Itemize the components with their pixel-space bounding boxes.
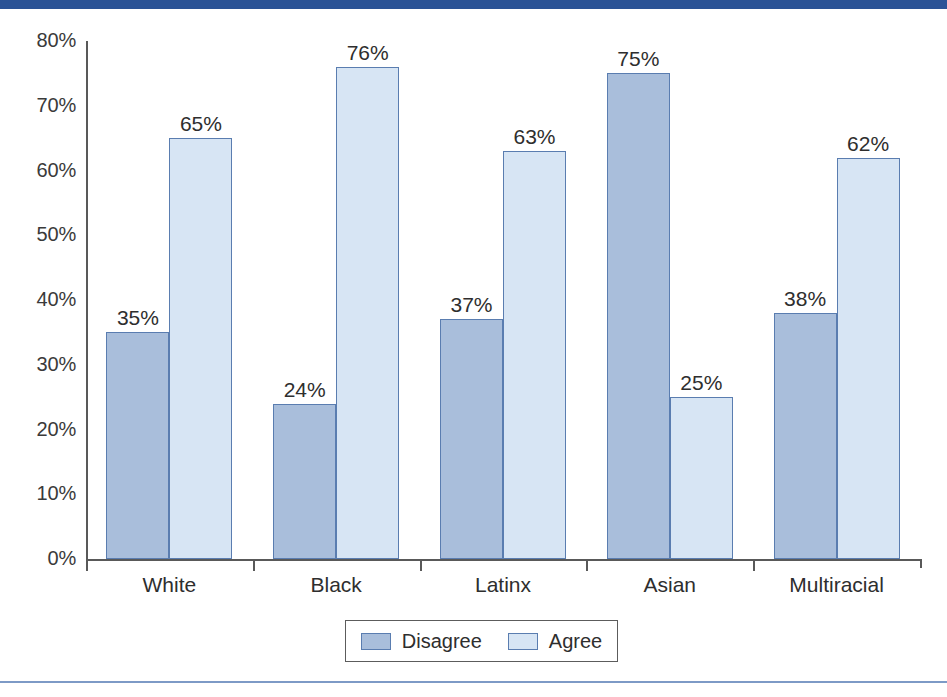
bar-value-label: 76% bbox=[347, 41, 389, 65]
y-axis-labels: 80%70%60%50%40%30%20%10%0% bbox=[0, 41, 76, 561]
x-axis-group-separator-tick bbox=[420, 561, 422, 571]
bar-group-black: 24%76% bbox=[273, 41, 399, 559]
bar-group-white: 35%65% bbox=[106, 41, 232, 559]
bar-value-label: 38% bbox=[784, 287, 826, 311]
x-axis-group-separator-tick bbox=[753, 561, 755, 571]
x-axis-label-multiracial: Multiracial bbox=[753, 573, 920, 597]
y-axis-tick-label: 40% bbox=[2, 288, 76, 311]
chart-page: 80%70%60%50%40%30%20%10%0% 35%65%24%76%3… bbox=[0, 0, 947, 697]
x-axis-label-black: Black bbox=[253, 573, 420, 597]
x-axis-line bbox=[86, 559, 922, 561]
bar-black-disagree: 24% bbox=[273, 404, 336, 559]
legend-item-agree: Agree bbox=[508, 630, 602, 653]
y-axis-tick-label: 80% bbox=[2, 29, 76, 52]
y-axis-tick-label: 70% bbox=[2, 94, 76, 117]
x-axis-label-white: White bbox=[86, 573, 253, 597]
y-axis-tick-label: 50% bbox=[2, 223, 76, 246]
x-axis-label-asian: Asian bbox=[586, 573, 753, 597]
legend-label-agree: Agree bbox=[549, 630, 602, 653]
bar-group-asian: 75%25% bbox=[607, 41, 733, 559]
bar-asian-agree: 25% bbox=[670, 397, 733, 559]
chart-legend: Disagree Agree bbox=[345, 620, 618, 662]
bar-value-label: 37% bbox=[450, 293, 492, 317]
bar-white-agree: 65% bbox=[169, 138, 232, 559]
bar-value-label: 35% bbox=[117, 306, 159, 330]
bar-value-label: 24% bbox=[284, 378, 326, 402]
legend-swatch-disagree bbox=[361, 633, 391, 650]
page-header-band bbox=[0, 0, 947, 9]
bar-value-label: 63% bbox=[513, 125, 555, 149]
x-axis-group-separator-tick bbox=[586, 561, 588, 571]
legend-swatch-agree bbox=[508, 633, 538, 650]
bar-value-label: 65% bbox=[180, 112, 222, 136]
x-axis-label-latinx: Latinx bbox=[420, 573, 587, 597]
bar-multiracial-disagree: 38% bbox=[774, 313, 837, 559]
plot-area: 35%65%24%76%37%63%75%25%38%62% bbox=[86, 41, 920, 559]
bar-black-agree: 76% bbox=[336, 67, 399, 559]
bar-latinx-agree: 63% bbox=[503, 151, 566, 559]
y-axis-tick-label: 60% bbox=[2, 159, 76, 182]
legend-label-disagree: Disagree bbox=[402, 630, 482, 653]
bar-group-latinx: 37%63% bbox=[440, 41, 566, 559]
x-axis-origin-tick bbox=[86, 561, 88, 571]
bar-white-disagree: 35% bbox=[106, 332, 169, 559]
bar-multiracial-agree: 62% bbox=[837, 158, 900, 559]
footer-rule bbox=[0, 681, 947, 683]
bar-asian-disagree: 75% bbox=[607, 73, 670, 559]
y-axis-tick-label: 0% bbox=[2, 547, 76, 570]
y-axis-tick-label: 30% bbox=[2, 353, 76, 376]
bar-latinx-disagree: 37% bbox=[440, 319, 503, 559]
y-axis-tick-label: 10% bbox=[2, 482, 76, 505]
y-axis-tick-label: 20% bbox=[2, 418, 76, 441]
x-axis-end-tick bbox=[920, 559, 922, 568]
bar-value-label: 62% bbox=[847, 132, 889, 156]
bar-value-label: 25% bbox=[680, 371, 722, 395]
bar-value-label: 75% bbox=[617, 47, 659, 71]
x-axis-group-separator-tick bbox=[253, 561, 255, 571]
legend-item-disagree: Disagree bbox=[361, 630, 482, 653]
bar-group-multiracial: 38%62% bbox=[774, 41, 900, 559]
